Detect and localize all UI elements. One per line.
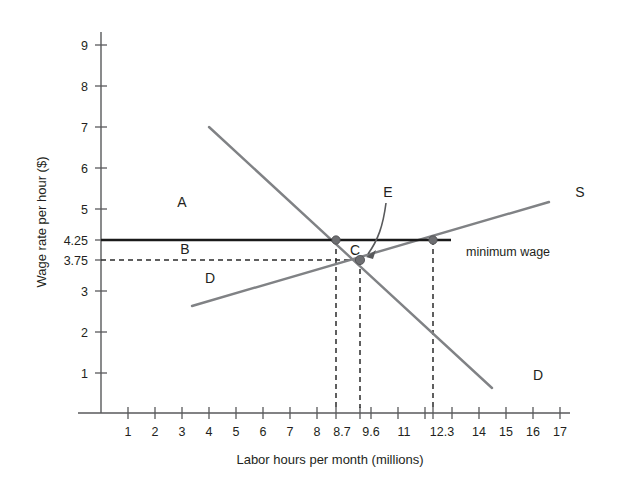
x-tick-label-12-3: 12.3 <box>430 425 454 439</box>
annotation-label-e: E <box>383 184 392 200</box>
x-tick-label-4: 4 <box>206 425 213 439</box>
x-tick-label-9-6: 9.6 <box>362 425 379 439</box>
region-label-c: C <box>350 242 360 258</box>
labels-group: A B C D E S D minimum wage <box>177 184 584 383</box>
x-tick-label-3: 3 <box>179 425 186 439</box>
demand-curve-label: D <box>533 367 543 383</box>
x-tick-labels-group: 1 2 3 4 5 6 7 8 8.7 9.6 11 12.3 14 15 16… <box>125 425 567 439</box>
guide-lines-group <box>101 240 433 408</box>
x-tick-label-15: 15 <box>499 425 513 439</box>
x-tick-label-11: 11 <box>398 425 411 439</box>
y-tick-label-5: 5 <box>81 203 88 217</box>
y-tick-label-8: 8 <box>81 80 88 94</box>
supply-curve-label: S <box>575 184 584 200</box>
y-axis-title: Wage rate per hour ($) <box>34 156 49 287</box>
y-tick-label-3-75: 3.75 <box>64 254 88 268</box>
x-tick-label-6: 6 <box>260 425 267 439</box>
x-tick-label-16: 16 <box>526 425 540 439</box>
labor-market-minimum-wage-chart: 9 8 7 6 5 4.25 3.75 3 2 1 <box>0 0 635 482</box>
axes-group <box>78 32 570 413</box>
point-quantity-supplied <box>429 236 437 244</box>
y-tick-label-3: 3 <box>81 285 88 299</box>
x-tick-label-8: 8 <box>314 425 321 439</box>
region-label-d: D <box>205 270 215 286</box>
x-axis-title: Labor hours per month (millions) <box>236 452 423 467</box>
y-tick-label-7: 7 <box>81 121 88 135</box>
x-tick-label-8-7: 8.7 <box>333 425 350 439</box>
y-tick-label-4-25: 4.25 <box>64 234 88 248</box>
region-label-b: B <box>180 241 189 257</box>
x-tick-label-17: 17 <box>553 425 567 439</box>
x-tick-label-14: 14 <box>472 425 486 439</box>
y-tick-label-2: 2 <box>81 326 88 340</box>
point-quantity-demanded <box>332 236 340 244</box>
y-tick-label-6: 6 <box>81 162 88 176</box>
e-arrow-curve <box>368 203 386 254</box>
y-tick-label-1: 1 <box>81 367 88 381</box>
x-tick-label-5: 5 <box>233 425 240 439</box>
x-tick-label-2: 2 <box>152 425 159 439</box>
x-tick-label-1: 1 <box>125 425 132 439</box>
x-tick-label-7: 7 <box>287 425 294 439</box>
minimum-wage-label: minimum wage <box>466 245 550 259</box>
region-label-a: A <box>177 194 187 210</box>
y-tick-labels-group: 9 8 7 6 5 4.25 3.75 3 2 1 <box>64 39 88 381</box>
y-tick-label-9: 9 <box>81 39 88 53</box>
chart-svg: 9 8 7 6 5 4.25 3.75 3 2 1 <box>0 0 635 482</box>
axis-titles-group: Labor hours per month (millions) Wage ra… <box>34 156 424 467</box>
